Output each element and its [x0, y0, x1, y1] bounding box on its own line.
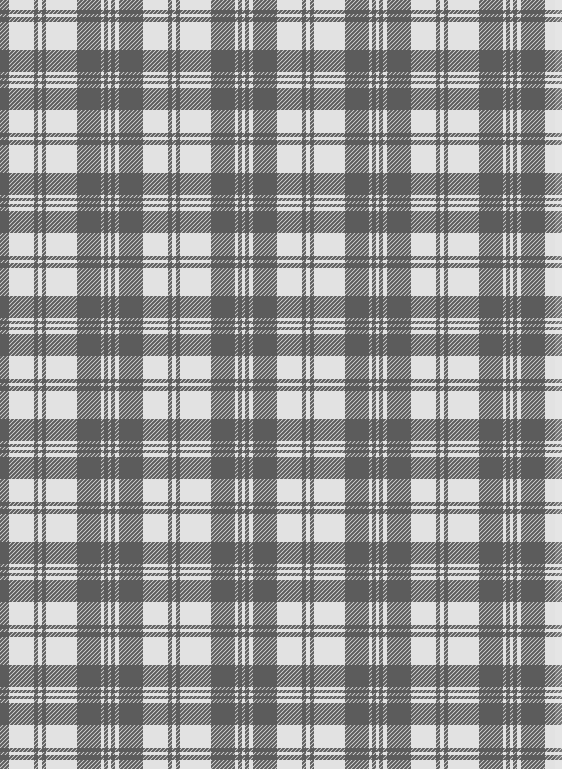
crossing-block: [238, 75, 242, 78]
crossing-block: [168, 211, 172, 233]
crossing-block: [104, 211, 108, 233]
crossing-block: [513, 133, 517, 137]
crossing-block: [513, 502, 517, 506]
crossing-block: [238, 140, 242, 145]
crossing-block: [34, 296, 38, 318]
crossing-block: [479, 457, 503, 479]
crossing-block: [111, 327, 115, 330]
crossing-block: [444, 256, 448, 260]
crossing-block: [238, 386, 242, 391]
crossing-block: [211, 211, 235, 233]
crossing-block: [253, 173, 277, 195]
crossing-block: [245, 567, 249, 570]
crossing-block: [119, 419, 143, 441]
crossing-block: [111, 256, 115, 260]
crossing-block: [111, 140, 115, 145]
crossing-block: [521, 748, 545, 752]
crossing-block: [345, 450, 369, 453]
crossing-block: [77, 386, 101, 391]
crossing-block: [245, 140, 249, 145]
crossing-block: [168, 580, 172, 602]
warp-band: [379, 0, 383, 769]
crossing-block: [119, 703, 143, 725]
crossing-block: [506, 419, 510, 441]
crossing-block: [42, 256, 46, 260]
crossing-block: [444, 665, 448, 687]
crossing-block: [77, 419, 101, 441]
plaid-fabric: [0, 0, 562, 769]
crossing-block: [0, 88, 9, 110]
crossing-block: [77, 50, 101, 72]
crossing-block: [111, 703, 115, 725]
crossing-block: [42, 755, 46, 760]
crossing-block: [345, 573, 369, 576]
crossing-block: [345, 50, 369, 72]
crossing-block: [176, 379, 180, 383]
crossing-block: [245, 379, 249, 383]
crossing-block: [302, 204, 306, 207]
crossing-block: [253, 50, 277, 72]
crossing-block: [119, 386, 143, 391]
crossing-block: [372, 665, 376, 687]
crossing-block: [0, 263, 9, 268]
crossing-block: [176, 140, 180, 145]
crossing-block: [0, 450, 9, 453]
crossing-block: [436, 198, 440, 201]
crossing-block: [0, 50, 9, 72]
crossing-block: [372, 748, 376, 752]
crossing-block: [506, 50, 510, 72]
crossing-block: [42, 625, 46, 629]
crossing-block: [302, 665, 306, 687]
crossing-block: [34, 457, 38, 479]
crossing-block: [253, 133, 277, 137]
crossing-block: [506, 204, 510, 207]
crossing-block: [111, 748, 115, 752]
crossing-block: [245, 450, 249, 453]
crossing-block: [211, 755, 235, 760]
crossing-block: [238, 334, 242, 356]
crossing-block: [345, 755, 369, 760]
crossing-block: [436, 75, 440, 78]
crossing-block: [211, 625, 235, 629]
crossing-block: [387, 379, 411, 383]
warp-band: [168, 0, 172, 769]
crossing-block: [238, 419, 242, 441]
warp-band: [310, 0, 314, 769]
crossing-block: [444, 696, 448, 699]
crossing-block: [444, 542, 448, 564]
crossing-block: [253, 444, 277, 447]
warp-band: [34, 0, 38, 769]
crossing-block: [345, 457, 369, 479]
crossing-block: [176, 509, 180, 514]
crossing-block: [0, 444, 9, 447]
crossing-block: [479, 204, 503, 207]
warp-band: [111, 0, 115, 769]
warp-band: [238, 0, 242, 769]
right-edge-strip: [555, 0, 562, 769]
crossing-block: [42, 50, 46, 72]
crossing-block: [302, 696, 306, 699]
crossing-block: [119, 457, 143, 479]
crossing-block: [302, 625, 306, 629]
crossing-block: [0, 509, 9, 514]
crossing-block: [253, 580, 277, 602]
crossing-block: [42, 567, 46, 570]
crossing-block: [104, 542, 108, 564]
crossing-block: [253, 327, 277, 330]
crossing-block: [42, 379, 46, 383]
crossing-block: [111, 696, 115, 699]
crossing-block: [444, 50, 448, 72]
crossing-block: [42, 696, 46, 699]
crossing-block: [345, 580, 369, 602]
crossing-block: [372, 88, 376, 110]
crossing-block: [168, 334, 172, 356]
crossing-block: [387, 567, 411, 570]
crossing-block: [521, 625, 545, 629]
crossing-block: [513, 632, 517, 637]
crossing-block: [253, 748, 277, 752]
crossing-block: [0, 256, 9, 260]
crossing-block: [379, 502, 383, 506]
crossing-block: [77, 10, 101, 14]
crossing-block: [521, 10, 545, 14]
crossing-block: [372, 173, 376, 195]
